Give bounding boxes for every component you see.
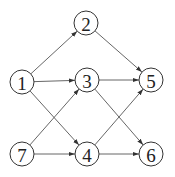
node-4: 4 <box>75 142 99 166</box>
edge-2-to-5 <box>95 31 142 72</box>
edge-1-to-3 <box>34 80 75 81</box>
node-2: 2 <box>74 11 98 35</box>
nodes-layer: 1234567 <box>10 11 163 166</box>
node-6: 6 <box>139 142 163 166</box>
node-7: 7 <box>10 142 34 166</box>
node-label: 3 <box>82 71 92 92</box>
node-label: 5 <box>146 71 156 92</box>
node-5: 5 <box>139 68 163 92</box>
graph-diagram: 1234567 <box>0 0 175 177</box>
node-3: 3 <box>75 68 99 92</box>
node-1: 1 <box>10 70 34 94</box>
node-label: 6 <box>146 145 156 166</box>
node-label: 4 <box>82 145 92 166</box>
node-label: 1 <box>17 73 27 94</box>
node-label: 7 <box>17 145 27 166</box>
edge-1-to-2 <box>31 31 77 74</box>
node-label: 2 <box>81 14 91 35</box>
